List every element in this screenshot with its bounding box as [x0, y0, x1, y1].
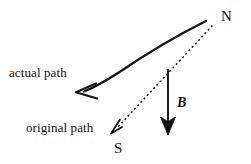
label-actual-path: actual path — [9, 66, 67, 79]
physics-diagram: actual path original path N S B — [0, 0, 251, 164]
label-magnetic-field: B — [177, 96, 186, 110]
label-south-pole: S — [114, 141, 122, 156]
actual-path-curve — [76, 21, 206, 99]
label-original-path: original path — [26, 121, 93, 134]
original-path-stroke — [116, 26, 212, 129]
label-north-pole: N — [221, 9, 232, 24]
field-arrow — [161, 69, 176, 135]
original-path-arrowhead — [111, 120, 122, 134]
actual-path-stroke — [84, 21, 206, 92]
diagram-canvas — [0, 0, 251, 164]
